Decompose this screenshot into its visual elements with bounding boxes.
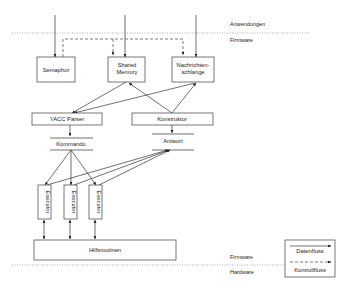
antwort-label: Antwort — [163, 138, 183, 144]
nachrichtenschlange-node: Nachrichten- schlange — [172, 57, 214, 82]
control-flow-arrow — [63, 39, 183, 57]
layer-label-firmware-bottom: Firmware — [230, 254, 253, 260]
executor-label: Executor — [71, 191, 77, 214]
shared-memory-label-2: Memory — [117, 69, 138, 75]
nachrichtenschlange-label-1: Nachrichten- — [177, 62, 210, 68]
architecture-diagram: Anwendungen Firmware Firmware Hardware S… — [0, 0, 347, 292]
layer-label-anwendungen: Anwendungen — [230, 21, 265, 27]
yacc-parser-label: YACC Parser — [50, 116, 84, 122]
nachrichtenschlange-label-2: schlange — [181, 69, 204, 75]
data-flow-arrow — [47, 150, 168, 185]
legend-control-flow-label: Kontrollfluss — [294, 267, 326, 273]
konstruktor-label: Konstruktor — [157, 116, 187, 122]
executor-label: Executor — [45, 191, 51, 214]
hilfsroutinen-label: Hilfsroutinen — [89, 247, 121, 253]
data-flow-arrow — [72, 82, 126, 113]
executor-node-3: Executor — [89, 185, 102, 219]
data-flow-arrow — [99, 150, 170, 185]
hilfsroutinen-node: Hilfsroutinen — [34, 240, 176, 260]
shared-memory-node: Shared Memory — [108, 57, 145, 82]
data-flow-arrow — [74, 150, 169, 185]
shared-memory-label-1: Shared — [118, 62, 137, 68]
executor-node-1: Executor — [38, 185, 51, 219]
konstruktor-node: Konstruktor — [132, 113, 213, 125]
data-flow-arrow — [74, 83, 195, 113]
executor-node-2: Executor — [64, 185, 77, 219]
kommando-store: Kommando — [50, 138, 93, 150]
semaphor-node: Semaphor — [37, 57, 75, 82]
legend: Datenfluss Kontrollfluss — [285, 240, 335, 277]
legend-data-flow-label: Datenfluss — [296, 248, 323, 254]
data-flow-arrow — [71, 150, 96, 185]
data-flow-arrow — [45, 150, 71, 185]
executor-label: Executor — [96, 191, 102, 214]
layer-label-firmware-top: Firmware — [230, 37, 253, 43]
layer-label-hardware: Hardware — [230, 269, 254, 275]
yacc-parser-node: YACC Parser — [32, 113, 102, 125]
semaphor-label: Semaphor — [43, 67, 70, 73]
kommando-label: Kommando — [56, 141, 86, 147]
antwort-store: Antwort — [152, 134, 194, 150]
